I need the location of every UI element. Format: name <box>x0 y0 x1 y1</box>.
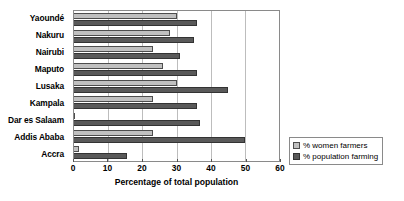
bar-row <box>74 28 279 45</box>
bar-row <box>74 94 279 111</box>
bar-population-farming <box>74 137 245 143</box>
bar-women-farmers <box>74 96 153 102</box>
bar-population-farming <box>74 87 228 93</box>
bar-population-farming <box>74 53 180 59</box>
category-label: Maputo <box>0 61 68 78</box>
category-label: Yaoundé <box>0 10 68 27</box>
category-axis-labels: YaoundéNakuruNairubiMaputoLusakaKampalaD… <box>0 10 68 162</box>
category-label: Nairubi <box>0 44 68 61</box>
x-tick-label: 40 <box>206 163 215 173</box>
legend-swatch-population-farming <box>293 153 300 160</box>
bar-row <box>74 128 279 145</box>
legend-label: % women farmers <box>303 141 367 150</box>
legend-swatch-women-farmers <box>293 142 300 149</box>
legend-label: % population farming <box>303 152 378 161</box>
bar-women-farmers <box>74 80 177 86</box>
x-axis-ticks: 0102030405060 <box>73 163 280 175</box>
x-tick-label: 50 <box>241 163 250 173</box>
legend-item: % population farming <box>293 152 378 161</box>
bar-population-farming <box>74 103 197 109</box>
x-tick-mark <box>73 159 74 162</box>
x-tick-mark <box>107 159 108 162</box>
x-tick-label: 60 <box>275 163 284 173</box>
category-label: Nakuru <box>0 27 68 44</box>
bar-women-farmers <box>74 46 153 52</box>
x-tick-mark <box>280 159 281 162</box>
chart-legend: % women farmers% population farming <box>289 137 383 165</box>
bar-chart: YaoundéNakuruNairubiMaputoLusakaKampalaD… <box>0 0 404 201</box>
x-tick-mark <box>177 159 178 162</box>
bar-women-farmers <box>74 30 170 36</box>
x-tick-label: 20 <box>137 163 146 173</box>
bar-row <box>74 111 279 128</box>
x-tick-label: 0 <box>71 163 76 173</box>
x-tick-mark <box>211 159 212 162</box>
bar-row <box>74 11 279 28</box>
bar-women-farmers <box>74 146 79 152</box>
bar-row <box>74 61 279 78</box>
legend-item: % women farmers <box>293 141 378 150</box>
category-label: Kampala <box>0 94 68 111</box>
bar-population-farming <box>74 70 197 76</box>
bar-women-farmers <box>74 63 163 69</box>
x-axis-title: Percentage of total population <box>73 177 280 187</box>
bar-population-farming <box>74 20 197 26</box>
bar-rows <box>74 11 279 161</box>
bar-women-farmers <box>74 113 75 119</box>
bar-row <box>74 78 279 95</box>
category-label: Addis Ababa <box>0 128 68 145</box>
bar-women-farmers <box>74 13 177 19</box>
plot-area <box>73 10 280 162</box>
x-tick-mark <box>246 159 247 162</box>
x-tick-label: 10 <box>103 163 112 173</box>
category-label: Lusaka <box>0 78 68 95</box>
bar-women-farmers <box>74 130 153 136</box>
category-label: Accra <box>0 145 68 162</box>
bar-row <box>74 44 279 61</box>
x-tick-mark <box>142 159 143 162</box>
bar-population-farming <box>74 120 200 126</box>
x-tick-label: 30 <box>172 163 181 173</box>
bar-population-farming <box>74 153 127 159</box>
bar-population-farming <box>74 37 194 43</box>
category-label: Dar es Salaam <box>0 111 68 128</box>
